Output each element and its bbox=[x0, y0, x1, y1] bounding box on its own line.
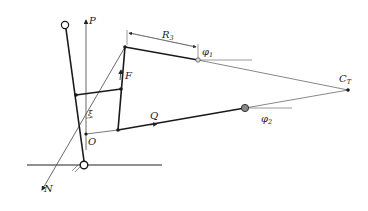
ground-pivot-joint bbox=[80, 161, 88, 169]
lower-right-node bbox=[116, 128, 120, 132]
label-phi2: φ2 bbox=[261, 113, 272, 126]
upper-arm-end-joint bbox=[196, 58, 200, 62]
label-q: Q bbox=[150, 110, 158, 121]
label-ct: CT bbox=[339, 73, 352, 86]
label-o: O bbox=[88, 136, 96, 147]
lower-instant-center-line bbox=[245, 90, 348, 108]
label-phi1: φ1 bbox=[202, 46, 213, 59]
top-right-node bbox=[123, 45, 127, 49]
label-xi: ξ bbox=[88, 109, 93, 118]
lower-arm-link bbox=[118, 108, 245, 130]
right-middle-node bbox=[119, 87, 123, 91]
instant-center-ct-node bbox=[346, 88, 350, 92]
lower-thin-link bbox=[86, 130, 118, 134]
label-p: P bbox=[88, 15, 96, 26]
kinematic-linkage-diagram: P F R3 φ1 CT Q φ2 O N ξ bbox=[0, 0, 368, 211]
label-f: F bbox=[124, 70, 133, 81]
left-middle-node bbox=[74, 93, 78, 97]
lower-arm-end-joint bbox=[241, 104, 248, 111]
top-pivot-joint bbox=[61, 21, 68, 28]
upper-arm-link bbox=[125, 47, 198, 60]
upper-instant-center-line bbox=[198, 60, 348, 90]
label-n: N bbox=[43, 183, 54, 194]
f-force-arrow bbox=[120, 70, 121, 80]
middle-coupler-link bbox=[76, 89, 121, 95]
